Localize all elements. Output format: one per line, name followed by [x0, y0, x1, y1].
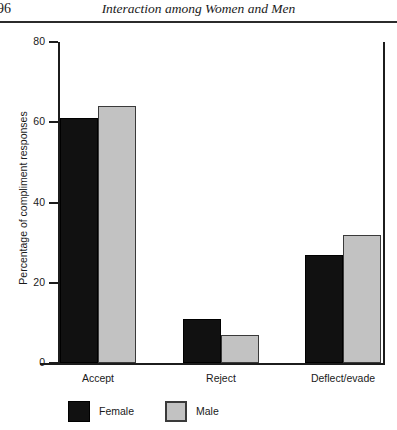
chart-legend: FemaleMale — [0, 400, 397, 430]
x-axis-label-reject: Reject — [161, 372, 281, 384]
y-axis-tick-label: 80 — [5, 35, 45, 47]
y-axis-tick-mark — [49, 202, 58, 204]
bar-reject-female — [183, 319, 221, 363]
plot-region — [58, 42, 385, 363]
bar-deflect-evade-male — [343, 235, 381, 363]
x-axis-label-deflect-evade: Deflect/evade — [283, 372, 397, 384]
legend-item-male: Male — [165, 400, 219, 422]
y-axis-tick-label: 60 — [5, 115, 45, 127]
bar-deflect-evade-female — [305, 255, 343, 363]
bar-chart: Percentage of compliment responses 02040… — [0, 24, 397, 430]
y-axis-tick-mark — [49, 41, 58, 43]
y-axis-tick-label: 0 — [5, 356, 45, 368]
legend-label-male: Male — [196, 405, 219, 417]
y-axis-tick-label: 40 — [5, 196, 45, 208]
x-axis-label-accept: Accept — [38, 372, 158, 384]
y-axis-tick-mark — [49, 121, 58, 123]
y-axis-tick-label: 20 — [5, 276, 45, 288]
page-running-head: 96 Interaction among Women and Men — [0, 0, 397, 24]
legend-swatch-male — [165, 401, 187, 422]
y-axis-tick-mark — [49, 362, 58, 364]
bar-accept-male — [98, 106, 136, 363]
legend-swatch-female — [68, 401, 90, 422]
bar-accept-female — [60, 118, 98, 363]
legend-item-female: Female — [68, 400, 134, 422]
bar-reject-male — [221, 335, 259, 363]
legend-label-female: Female — [99, 405, 134, 417]
running-title: Interaction among Women and Men — [0, 1, 397, 17]
y-axis-tick-mark — [49, 282, 58, 284]
x-axis-line — [40, 363, 385, 365]
header-rule — [0, 21, 397, 23]
